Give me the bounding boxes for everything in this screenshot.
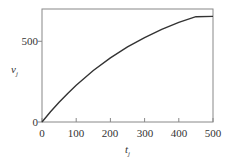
- axis-ticks: [38, 41, 213, 122]
- line-chart: 0 500 0 100 200 300 400 500 tj vj: [0, 0, 237, 163]
- y-tick-0: 0: [33, 116, 39, 128]
- x-tick-300: 300: [137, 127, 154, 139]
- x-tick-400: 400: [171, 127, 188, 139]
- y-axis-label: vj: [11, 63, 18, 78]
- x-axis-label: tj: [125, 143, 130, 158]
- x-tick-100: 100: [68, 127, 85, 139]
- x-tick-0: 0: [39, 127, 45, 139]
- plot-frame: [42, 9, 213, 122]
- x-tick-500: 500: [205, 127, 222, 139]
- y-tick-500: 500: [22, 35, 39, 47]
- data-curve: [42, 16, 213, 122]
- x-tick-200: 200: [102, 127, 119, 139]
